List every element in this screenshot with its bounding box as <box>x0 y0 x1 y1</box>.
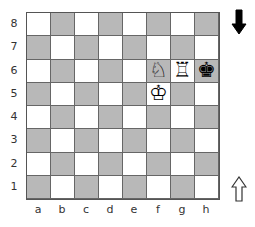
square-g2[interactable] <box>171 153 195 176</box>
square-b8[interactable] <box>51 13 75 36</box>
file-label-b: b <box>50 203 74 216</box>
white-knight-icon[interactable]: ♘ <box>149 60 168 81</box>
file-label-c: c <box>74 203 98 216</box>
square-g8[interactable] <box>171 13 195 36</box>
square-f1[interactable] <box>147 176 171 199</box>
square-a4[interactable] <box>27 106 51 129</box>
square-c3[interactable] <box>75 129 99 152</box>
square-b7[interactable] <box>51 36 75 59</box>
square-b6[interactable] <box>51 60 75 83</box>
square-f6[interactable]: ♘ <box>147 60 171 83</box>
rank-label-2: 2 <box>8 157 20 170</box>
square-f8[interactable] <box>147 13 171 36</box>
square-a7[interactable] <box>27 36 51 59</box>
square-e1[interactable] <box>123 176 147 199</box>
rank-label-1: 1 <box>8 180 20 193</box>
square-e6[interactable] <box>123 60 147 83</box>
square-a1[interactable] <box>27 176 51 199</box>
rank-label-6: 6 <box>8 64 20 77</box>
square-d1[interactable] <box>99 176 123 199</box>
square-e5[interactable] <box>123 83 147 106</box>
black-king-icon[interactable]: ♚ <box>197 60 216 81</box>
square-b2[interactable] <box>51 153 75 176</box>
square-c2[interactable] <box>75 153 99 176</box>
square-h1[interactable] <box>195 176 219 199</box>
square-e8[interactable] <box>123 13 147 36</box>
square-b5[interactable] <box>51 83 75 106</box>
square-h6[interactable]: ♚ <box>195 60 219 83</box>
square-f5[interactable]: ♔ <box>147 83 171 106</box>
rank-label-5: 5 <box>8 87 20 100</box>
file-label-g: g <box>170 203 194 216</box>
square-h4[interactable] <box>195 106 219 129</box>
square-h8[interactable] <box>195 13 219 36</box>
white-king-icon[interactable]: ♔ <box>149 83 168 104</box>
square-e7[interactable] <box>123 36 147 59</box>
square-d2[interactable] <box>99 153 123 176</box>
square-d7[interactable] <box>99 36 123 59</box>
square-g1[interactable] <box>171 176 195 199</box>
square-g4[interactable] <box>171 106 195 129</box>
file-label-e: e <box>122 203 146 216</box>
square-a5[interactable] <box>27 83 51 106</box>
square-b3[interactable] <box>51 129 75 152</box>
rank-label-8: 8 <box>8 17 20 30</box>
square-g3[interactable] <box>171 129 195 152</box>
square-f7[interactable] <box>147 36 171 59</box>
square-d5[interactable] <box>99 83 123 106</box>
square-c4[interactable] <box>75 106 99 129</box>
square-d8[interactable] <box>99 13 123 36</box>
square-c7[interactable] <box>75 36 99 59</box>
white-to-move-arrow-icon <box>231 176 247 202</box>
square-e3[interactable] <box>123 129 147 152</box>
square-f3[interactable] <box>147 129 171 152</box>
square-d3[interactable] <box>99 129 123 152</box>
rank-label-4: 4 <box>8 110 20 123</box>
square-c1[interactable] <box>75 176 99 199</box>
square-a2[interactable] <box>27 153 51 176</box>
rank-label-7: 7 <box>8 40 20 53</box>
square-g6[interactable]: ♖ <box>171 60 195 83</box>
square-h7[interactable] <box>195 36 219 59</box>
square-e2[interactable] <box>123 153 147 176</box>
file-label-d: d <box>98 203 122 216</box>
black-to-move-arrow-icon <box>231 9 247 35</box>
square-h2[interactable] <box>195 153 219 176</box>
square-d6[interactable] <box>99 60 123 83</box>
white-rook-icon[interactable]: ♖ <box>173 60 192 81</box>
square-d4[interactable] <box>99 106 123 129</box>
square-g5[interactable] <box>171 83 195 106</box>
square-a3[interactable] <box>27 129 51 152</box>
square-b1[interactable] <box>51 176 75 199</box>
file-label-a: a <box>26 203 50 216</box>
square-c6[interactable] <box>75 60 99 83</box>
square-b4[interactable] <box>51 106 75 129</box>
file-label-h: h <box>194 203 218 216</box>
rank-label-3: 3 <box>8 133 20 146</box>
square-c8[interactable] <box>75 13 99 36</box>
square-h5[interactable] <box>195 83 219 106</box>
square-c5[interactable] <box>75 83 99 106</box>
square-a6[interactable] <box>27 60 51 83</box>
square-f4[interactable] <box>147 106 171 129</box>
chess-board: ♘♖♚♔ <box>26 12 220 200</box>
square-g7[interactable] <box>171 36 195 59</box>
file-label-f: f <box>146 203 170 216</box>
square-e4[interactable] <box>123 106 147 129</box>
square-h3[interactable] <box>195 129 219 152</box>
square-f2[interactable] <box>147 153 171 176</box>
square-a8[interactable] <box>27 13 51 36</box>
